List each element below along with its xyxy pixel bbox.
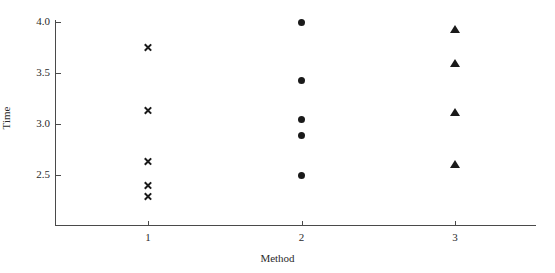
y-axis-line [55, 20, 56, 226]
data-point-circle [298, 172, 305, 179]
data-point-circle [298, 77, 305, 84]
y-tick-label-wrap: 3.5 [18, 67, 50, 79]
data-point-triangle [450, 25, 460, 33]
y-tick-label: 2.5 [20, 169, 50, 180]
y-tick-label: 3.0 [20, 118, 50, 129]
data-point-cross [144, 106, 153, 115]
y-axis-title: Time [0, 98, 12, 138]
data-point-cross [144, 181, 153, 190]
y-tick-label-wrap: 4.0 [18, 16, 50, 28]
data-point-cross [144, 157, 153, 166]
y-tick-mark [56, 175, 61, 176]
x-axis-line [55, 225, 536, 226]
x-tick-label: 3 [440, 232, 470, 243]
x-tick-mark [455, 221, 456, 226]
x-tick-label: 2 [287, 232, 317, 243]
y-tick-label-wrap: 3.0 [18, 118, 50, 130]
x-tick-label: 1 [133, 232, 163, 243]
y-tick-label: 3.5 [20, 67, 50, 78]
data-point-circle [298, 19, 305, 26]
y-tick-mark [56, 73, 61, 74]
data-point-triangle [450, 160, 460, 168]
y-tick-label: 4.0 [20, 16, 50, 27]
x-tick-mark [148, 221, 149, 226]
data-point-cross [144, 43, 153, 52]
x-axis-title: Method [0, 252, 555, 264]
y-tick-label-wrap: 2.5 [18, 169, 50, 181]
data-point-circle [298, 132, 305, 139]
data-point-triangle [450, 108, 460, 116]
x-tick-mark [302, 221, 303, 226]
scatter-plot-figure: 4.03.53.02.5 123 Method Time [0, 0, 555, 273]
data-point-triangle [450, 59, 460, 67]
data-point-circle [298, 116, 305, 123]
y-tick-mark [56, 22, 61, 23]
y-tick-mark [56, 124, 61, 125]
data-point-cross [144, 192, 153, 201]
